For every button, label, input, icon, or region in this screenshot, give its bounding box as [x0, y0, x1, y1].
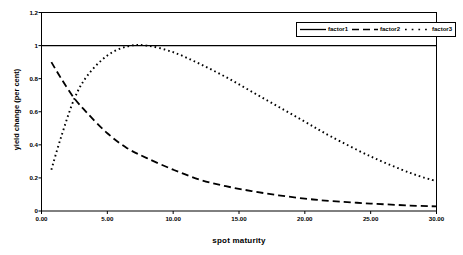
chart-container: yield change (per cent) spot maturity 00…	[0, 0, 463, 255]
series-layer	[42, 45, 437, 206]
legend-swatch-dashed-icon	[352, 26, 378, 33]
legend-swatch-solid-icon	[300, 26, 326, 33]
legend-label-factor1: factor1	[328, 26, 348, 33]
legend-entry-factor1[interactable]: factor1	[300, 26, 348, 33]
legend-label-factor3: factor3	[432, 26, 452, 33]
series-line-factor3	[51, 45, 436, 181]
legend-entry-factor3[interactable]: factor3	[404, 26, 452, 33]
legend-entry-factor2[interactable]: factor2	[352, 26, 400, 33]
chart-legend: factor1 factor2 factor3	[296, 22, 456, 37]
legend-label-factor2: factor2	[380, 26, 400, 33]
series-line-factor2	[51, 62, 436, 206]
plot-frame	[42, 13, 437, 212]
legend-swatch-dotted-icon	[404, 26, 430, 33]
plot-area	[0, 0, 463, 255]
